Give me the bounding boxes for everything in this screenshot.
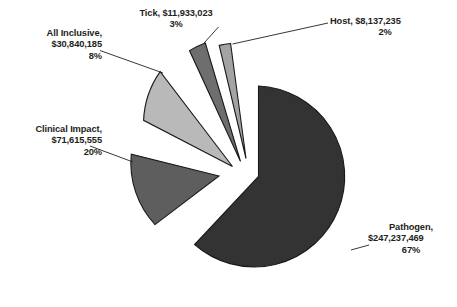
slice-label-clinical-impact-value: $71,615,555 (6, 135, 102, 146)
slice-label-pathogen-name: Pathogen, (368, 222, 454, 233)
slice-label-pathogen-percent: 67% (368, 245, 454, 256)
slice-label-clinical-impact-percent: 20% (6, 147, 102, 158)
slice-label-clinical-impact-name: Clinical Impact, (6, 124, 102, 135)
leader-line-host (233, 23, 329, 44)
slice-label-all-inclusive: All Inclusive, $30,840,185 8% (14, 28, 102, 62)
slice-label-host: Host, $8,137,235 2% (330, 16, 440, 39)
slice-label-all-inclusive-percent: 8% (14, 51, 102, 62)
pie-chart: All Inclusive, $30,840,185 8% Tick, $11,… (0, 0, 457, 307)
slice-label-host-percent: 2% (330, 27, 440, 38)
slice-label-tick-name-value: Tick, $11,933,023 (124, 8, 228, 19)
slice-label-host-name-value: Host, $8,137,235 (330, 16, 440, 27)
slice-label-tick-percent: 3% (124, 19, 228, 30)
slice-label-pathogen: Pathogen, $247,237,469 67% (368, 222, 454, 256)
slice-label-tick: Tick, $11,933,023 3% (124, 8, 228, 31)
leader-line-all-inclusive (100, 51, 163, 74)
pie-slice-all-inclusive[interactable] (144, 72, 233, 167)
leader-line-pathogen (351, 245, 369, 250)
pie-slice-clinical-impact[interactable] (131, 154, 219, 225)
slice-label-pathogen-value: $247,237,469 (368, 233, 454, 244)
slice-label-all-inclusive-value: $30,840,185 (14, 39, 102, 50)
slice-label-clinical-impact: Clinical Impact, $71,615,555 20% (6, 124, 102, 158)
slice-label-all-inclusive-name: All Inclusive, (14, 28, 102, 39)
